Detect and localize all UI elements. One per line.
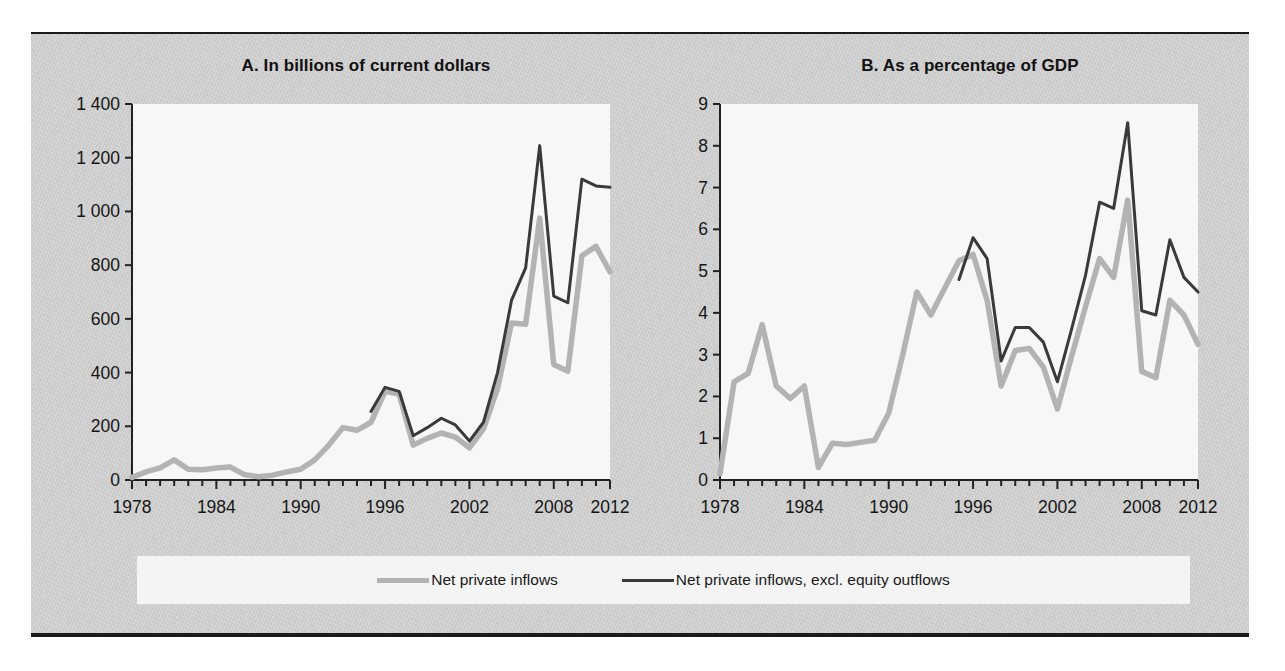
y-tick-label: 200	[91, 416, 120, 436]
x-tick-label: 1984	[197, 497, 236, 517]
x-tick-label: 2002	[1038, 497, 1077, 517]
line-swatch-dark	[622, 579, 674, 582]
figure-bottom-rule	[31, 633, 1249, 637]
legend-item-label: Net private inflows	[431, 571, 558, 589]
x-tick-label: 1978	[701, 497, 740, 517]
panel-a: A. In billions of current dollars 020040…	[40, 40, 640, 520]
y-tick-label: 1 000	[76, 201, 120, 221]
line-swatch-gray	[377, 578, 429, 583]
y-tick-label: 5	[698, 261, 708, 281]
x-tick-label: 1996	[366, 497, 405, 517]
y-tick-label: 2	[698, 386, 708, 406]
y-tick-label: 800	[91, 255, 120, 275]
x-tick-label: 1990	[869, 497, 908, 517]
y-tick-label: 0	[110, 470, 120, 490]
panel-b: B. As a percentage of GDP 01234567891978…	[650, 40, 1250, 520]
chart-legend: Net private inflowsNet private inflows, …	[137, 556, 1190, 604]
plot-area	[720, 104, 1198, 480]
legend-item-label: Net private inflows, excl. equity outflo…	[676, 571, 950, 589]
panel-b-svg: 01234567891978198419901996200220082012	[650, 40, 1250, 520]
legend-item: Net private inflows, excl. equity outflo…	[622, 571, 950, 589]
legend-items: Net private inflowsNet private inflows, …	[137, 556, 1190, 604]
x-tick-label: 1990	[281, 497, 320, 517]
y-tick-label: 7	[698, 178, 708, 198]
y-tick-label: 6	[698, 219, 708, 239]
y-tick-label: 3	[698, 345, 708, 365]
y-tick-label: 9	[698, 94, 708, 114]
y-tick-label: 8	[698, 136, 708, 156]
figure-root: A. In billions of current dollars 020040…	[0, 0, 1285, 671]
y-tick-label: 1	[698, 428, 708, 448]
x-tick-label: 2008	[534, 497, 573, 517]
panel-b-plot: 01234567891978198419901996200220082012	[650, 40, 1250, 520]
legend-item: Net private inflows	[377, 571, 558, 589]
y-tick-label: 4	[698, 303, 708, 323]
x-tick-label: 2008	[1122, 497, 1161, 517]
y-tick-label: 400	[91, 363, 120, 383]
x-tick-label: 1978	[113, 497, 152, 517]
x-tick-label: 1984	[785, 497, 824, 517]
y-tick-label: 1 400	[76, 94, 120, 114]
y-tick-label: 0	[698, 470, 708, 490]
y-tick-label: 600	[91, 309, 120, 329]
panel-a-svg: 02004006008001 0001 2001 400197819841990…	[40, 40, 640, 520]
x-tick-label: 2002	[450, 497, 489, 517]
x-tick-label: 1996	[954, 497, 993, 517]
panel-a-plot: 02004006008001 0001 2001 400197819841990…	[40, 40, 640, 520]
x-tick-label: 2012	[591, 497, 630, 517]
y-tick-label: 1 200	[76, 148, 120, 168]
x-tick-label: 2012	[1179, 497, 1218, 517]
